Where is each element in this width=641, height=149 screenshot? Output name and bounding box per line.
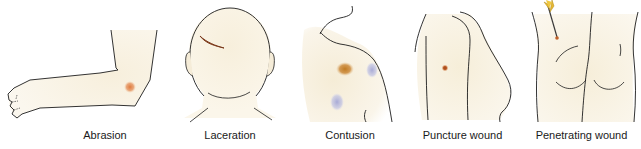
caption-puncture: Puncture wound (415, 129, 510, 141)
puncture-mark (442, 65, 449, 72)
buttocks-illustration (520, 0, 641, 149)
abrasion-mark (124, 81, 136, 93)
caption-laceration: Laceration (190, 129, 270, 141)
contusion-mark-bluish (366, 62, 378, 78)
caption-abrasion: Abrasion (70, 129, 140, 141)
contusion-mark (336, 62, 354, 76)
panel-laceration: Laceration (160, 0, 300, 149)
panel-puncture: Puncture wound (400, 0, 520, 149)
shoulder-illustration (300, 0, 410, 149)
caption-penetrating: Penetrating wound (524, 129, 639, 141)
head-illustration (160, 0, 300, 149)
caption-contusion: Contusion (315, 129, 385, 141)
arm-illustration (0, 0, 160, 149)
torso-illustration (400, 0, 520, 149)
penetrating-mark (555, 36, 559, 40)
panel-penetrating: Penetrating wound (520, 0, 641, 149)
contusion-mark-bluish (330, 93, 344, 111)
panel-abrasion: Abrasion (0, 0, 160, 149)
panel-contusion: Contusion (300, 0, 410, 149)
